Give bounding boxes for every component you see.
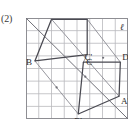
grid-diagram-canvas: ABCDA'B'C'D'ℓ [26,18,128,119]
quadrilaterals [35,19,120,114]
vertex-label-d-prime: D' [122,52,128,62]
vertex-label-c-prime: C' [84,52,92,62]
vertex-label-a: A [45,18,52,19]
geometry-svg: ABCDA'B'C'D'ℓ [26,18,128,119]
line-label-l: ℓ [120,22,124,32]
vertex-label-b-prime: B' [74,116,82,119]
figure-number-label: (2) [1,13,12,24]
figure-container: (2) ABCDA'B'C'D'ℓ [0,0,140,124]
connector-lines [35,19,120,114]
midpoint-dots [56,57,105,89]
vertex-label-b: B [26,57,32,67]
vertex-label-d: D [85,18,92,19]
vertex-label-a-prime: A' [121,96,128,106]
